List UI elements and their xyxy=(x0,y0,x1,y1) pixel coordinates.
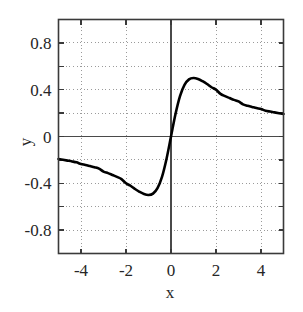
x-tick-label: -4 xyxy=(74,262,88,279)
chart-figure: 0.80.40-0.4-0.8 -4-2024 x y xyxy=(0,0,303,312)
x-tick-label: 2 xyxy=(212,262,221,279)
y-tick-label: -0.8 xyxy=(25,222,52,239)
x-axis-title: x xyxy=(166,284,175,301)
x-tick-label: 0 xyxy=(167,262,176,279)
y-tick-label: -0.4 xyxy=(25,175,52,192)
y-tick-label: 0.8 xyxy=(30,34,51,51)
x-tick-label: 4 xyxy=(257,262,266,279)
x-tick-label: -2 xyxy=(119,262,133,279)
y-tick-label: 0.4 xyxy=(30,81,51,98)
y-axis-title: y xyxy=(17,138,34,147)
y-tick-label: 0 xyxy=(43,128,52,145)
